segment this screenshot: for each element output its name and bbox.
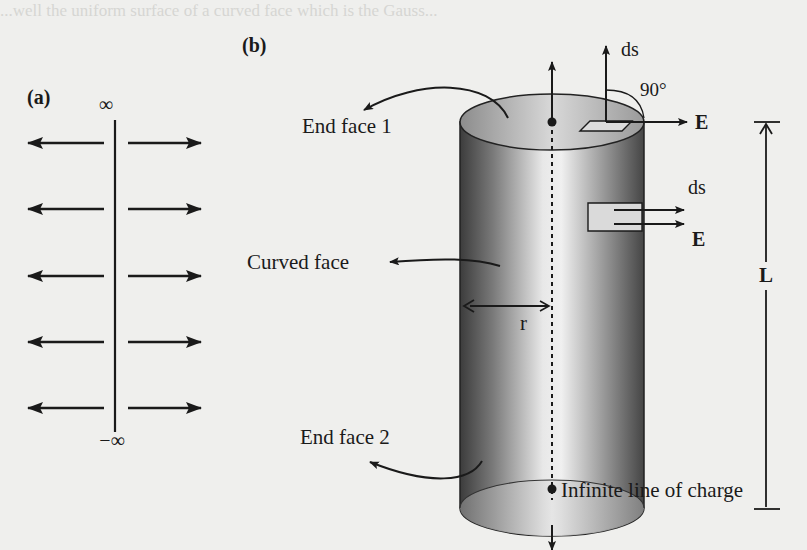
length-dimension	[754, 122, 780, 509]
end-face-1-label: End face 1	[302, 114, 392, 138]
negative-infinity-label: −∞	[99, 429, 125, 451]
ds-top-label: ds	[621, 38, 639, 60]
length-label: L	[759, 263, 773, 287]
charge-dot-bottom	[548, 485, 557, 494]
bleed-through-text: ...well the uniform surface of a curved …	[0, 1, 438, 20]
infinity-top-label: ∞	[99, 93, 113, 115]
gauss-cylinder-diagram: ...well the uniform surface of a curved …	[0, 0, 807, 550]
end-face-2-label: End face 2	[300, 425, 390, 449]
angle-label: 90°	[640, 79, 667, 100]
side-surface-patch	[588, 203, 642, 231]
figure-canvas: ...well the uniform surface of a curved …	[0, 0, 807, 550]
curved-face-label: Curved face	[247, 250, 349, 274]
panel-b-label: (b)	[242, 34, 266, 57]
e-side-label: E	[692, 228, 705, 250]
line-of-charge-label: Infinite line of charge	[561, 478, 743, 502]
radius-label: r	[520, 311, 527, 335]
panel-a-label: (a)	[27, 86, 50, 109]
panel-a: (a) ∞ −∞	[27, 86, 201, 451]
charge-dot-top	[548, 118, 557, 127]
e-top-label: E	[695, 111, 708, 133]
ds-side-label: ds	[688, 176, 706, 198]
cylinder-curved-face	[460, 122, 644, 536]
panel-b: (b) ds 90° E ds E r	[242, 34, 780, 550]
